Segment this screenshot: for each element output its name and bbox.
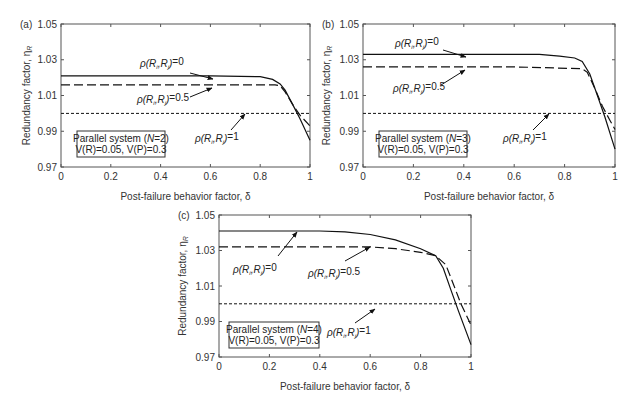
y-axis-label: Redundancy factor, ηR [321,46,333,146]
x-tick-label: 0.2 [104,171,118,182]
y-tick-label: 0.97 [196,352,216,363]
panel-label: (c) [178,210,190,221]
arrow-icon [355,309,375,323]
box-line-1: Parallel system (N=4) [226,324,322,335]
correlation-label: ρ(Ri,Rj)=0 [139,56,184,70]
series-dashed [219,247,471,325]
box-line-1: Parallel system (N=2) [73,133,169,144]
x-tick-label: 0 [58,171,64,182]
correlation-label: ρ(Ri,Rj)=1 [326,325,371,339]
box-line-2: V(R)=0.05, V(P)=0.3 [377,144,469,155]
y-tick-label: 1.01 [340,90,360,101]
arrow-icon [345,247,370,261]
x-tick-label: 0.4 [154,171,168,182]
x-tick-label: 0 [216,361,222,372]
y-tick-label: 0.99 [340,126,360,137]
x-tick-label: 0.4 [313,361,327,372]
arrow-icon [231,114,245,130]
y-tick-label: 1.05 [196,210,216,221]
x-tick-label: 0.2 [406,171,420,182]
panel-label: (a) [20,19,32,30]
y-tick-label: 1.03 [340,54,360,65]
correlation-label: ρ(Ri,Rj)=1 [194,131,239,145]
y-tick-label: 0.97 [340,162,360,173]
y-axis-label: Redundancy factor, ηR [177,236,189,336]
panel-b: (b)1.051.031.010.990.9700.20.40.60.81Pos… [321,19,618,203]
arrow-icon [278,232,297,256]
arrow-icon [190,88,212,97]
x-axis-label: Post-failure behavior factor, δ [280,381,411,392]
arrow-icon [441,70,465,85]
panel-c: (c)1.051.031.010.990.9700.20.40.60.81Pos… [177,210,474,393]
y-tick-label: 1.01 [38,90,58,101]
series-dashed [363,67,615,130]
x-tick-label: 1 [612,171,618,182]
panel-a: (a)1.051.031.010.990.9700.20.40.60.81Pos… [20,19,313,203]
x-tick-label: 0.8 [558,171,572,182]
panel-label: (b) [322,19,334,30]
box-line-1: Parallel system (N=3) [375,133,471,144]
x-tick-label: 0.4 [457,171,471,182]
x-axis-label: Post-failure behavior factor, δ [120,191,251,202]
x-tick-label: 0.8 [414,361,428,372]
figure: (a)1.051.031.010.990.9700.20.40.60.81Pos… [0,0,633,404]
correlation-label: ρ(Ri,Rj)=1 [502,131,547,145]
y-tick-label: 0.99 [38,126,58,137]
x-tick-label: 0.8 [253,171,267,182]
x-tick-label: 1 [468,361,474,372]
y-tick-label: 1.05 [38,19,58,30]
correlation-label: ρ(Ri,Rj)=0.5 [307,266,360,280]
y-tick-label: 1.03 [38,54,58,65]
correlation-label: ρ(Ri,Rj)=0 [232,262,277,276]
y-tick-label: 0.99 [196,316,216,327]
correlation-label: ρ(Ri,Rj)=0 [394,36,439,50]
x-axis-label: Post-failure behavior factor, δ [424,191,555,202]
correlation-label: ρ(Ri,Rj)=0.5 [392,81,445,95]
arrow-icon [443,50,466,57]
y-tick-label: 0.97 [38,162,58,173]
x-tick-label: 0.6 [203,171,217,182]
arrow-icon [533,114,549,130]
x-tick-label: 1 [307,171,313,182]
box-line-2: V(R)=0.05, V(P)=0.3 [228,335,320,346]
x-tick-label: 0.6 [363,361,377,372]
y-tick-label: 1.05 [340,19,360,30]
y-tick-label: 1.01 [196,281,216,292]
x-tick-label: 0.6 [507,171,521,182]
y-tick-label: 1.03 [196,245,216,256]
correlation-label: ρ(Ri,Rj)=0.5 [136,92,189,106]
box-line-2: V(R)=0.05, V(P)=0.3 [75,144,167,155]
x-tick-label: 0 [360,171,366,182]
y-axis-label: Redundancy factor, ηR [21,46,33,146]
x-tick-label: 0.2 [262,361,276,372]
series-dashed [61,85,310,126]
